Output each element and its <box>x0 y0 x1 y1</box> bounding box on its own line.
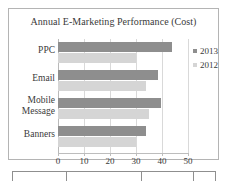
x-tick-label-20: 20 <box>100 156 120 166</box>
category-label-ppc: PPC <box>38 45 55 56</box>
bar-ppc-2012[interactable] <box>58 53 136 63</box>
legend-item-2013[interactable]: 2013 <box>193 44 223 58</box>
chart-container: Annual E-Marketing Performance (Cost) <box>8 8 219 160</box>
category-label-mobile-message-line1: Mobile <box>28 95 55 106</box>
x-tick-label-30: 30 <box>126 156 146 166</box>
table-column-divider <box>141 172 142 181</box>
legend-label-2013: 2013 <box>200 46 218 56</box>
bar-mobile-message-2012[interactable] <box>58 109 149 119</box>
legend-swatch-icon-2013 <box>193 49 197 53</box>
bar-banners-2012[interactable] <box>58 137 136 147</box>
legend-item-2012[interactable]: 2012 <box>193 58 223 72</box>
bar-ppc-2013[interactable] <box>58 42 172 52</box>
chart-legend: 2013 2012 <box>193 44 223 72</box>
bar-mobile-message-2013[interactable] <box>58 98 161 108</box>
table-column-divider <box>193 172 194 181</box>
legend-swatch-icon-2012 <box>193 63 197 67</box>
category-label-email: Email <box>32 73 55 84</box>
table-column-divider <box>66 172 67 181</box>
gridline-50 <box>188 39 189 153</box>
x-axis-line <box>58 153 188 154</box>
bar-email-2013[interactable] <box>58 70 158 80</box>
bar-email-2012[interactable] <box>58 81 146 91</box>
category-label-mobile-message-line2: Message <box>22 106 55 117</box>
x-tick-label-0: 0 <box>48 156 68 166</box>
legend-label-2012: 2012 <box>200 60 218 70</box>
plot-area <box>58 39 188 153</box>
screenshot-root: Annual E-Marketing Performance (Cost) <box>0 0 228 181</box>
x-tick-label-10: 10 <box>74 156 94 166</box>
chart-title: Annual E-Marketing Performance (Cost) <box>9 16 218 27</box>
table-fragment-below-chart <box>12 171 216 181</box>
x-tick-label-40: 40 <box>152 156 172 166</box>
x-tick-label-50: 50 <box>178 156 198 166</box>
bar-banners-2013[interactable] <box>58 126 146 136</box>
category-label-banners: Banners <box>24 129 55 140</box>
gridline-40 <box>162 39 163 153</box>
